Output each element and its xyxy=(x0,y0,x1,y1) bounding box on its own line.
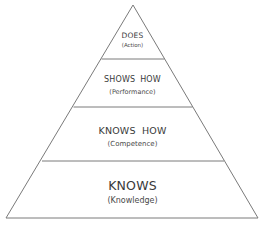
level-title: KNOWS HOW xyxy=(0,125,265,136)
level-subtitle: (Competence) xyxy=(0,140,265,148)
level-title: KNOWS xyxy=(0,178,265,193)
level-subtitle: (Knowledge) xyxy=(0,196,265,205)
level-title: SHOWS HOW xyxy=(0,75,265,84)
level-title: DOES xyxy=(0,31,265,40)
level-subtitle: (Action) xyxy=(0,42,265,48)
level-subtitle: (Performance) xyxy=(0,88,265,96)
